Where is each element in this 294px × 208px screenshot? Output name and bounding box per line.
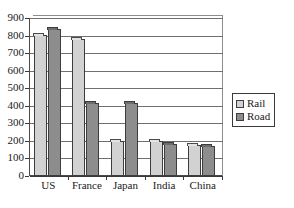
bar-top-cap <box>71 37 82 40</box>
y-axis-tick-mark <box>25 176 29 177</box>
bar-top-cap <box>187 143 198 146</box>
bar-chart: 0100200300400500600700800900 USFranceJap… <box>0 0 294 208</box>
y-axis-tick-mark <box>25 53 29 54</box>
legend-swatch-icon <box>236 100 244 108</box>
x-axis: USFranceJapanIndiaChina <box>29 179 222 197</box>
bar-china-rail <box>188 145 201 176</box>
bar-top-cap <box>85 101 96 104</box>
bar-us-rail <box>34 35 47 176</box>
y-axis-tick-mark <box>25 71 29 72</box>
bar-top-cap <box>201 144 212 147</box>
y-axis-tick-mark <box>25 36 29 37</box>
y-axis-tick-label: 800 <box>0 30 24 41</box>
chart-legend: RailRoad <box>232 93 275 127</box>
plot-frame-top-edge <box>33 15 223 16</box>
y-axis-tick-mark <box>25 106 29 107</box>
y-axis-tick-mark <box>25 141 29 142</box>
bar-japan-rail <box>111 141 124 176</box>
axis-baseline <box>30 176 223 177</box>
bar-top-cap <box>149 139 160 142</box>
bar-japan-road <box>125 103 138 176</box>
y-axis-tick-label: 500 <box>0 82 24 93</box>
x-axis-tick-mark <box>106 176 107 180</box>
bar-group-container <box>29 18 222 176</box>
y-axis-tick-label: 600 <box>0 65 24 76</box>
legend-item-rail[interactable]: Rail <box>236 97 270 110</box>
legend-item-road[interactable]: Road <box>236 110 270 123</box>
bar-france-rail <box>72 39 85 176</box>
y-axis-tick-label: 900 <box>0 12 24 23</box>
bar-top-cap <box>110 139 121 142</box>
y-axis-tick-mark <box>25 158 29 159</box>
bar-top-cap <box>47 27 58 30</box>
bar-top-cap <box>163 142 174 145</box>
plot-frame-right-edge <box>222 15 223 176</box>
x-axis-tick-label: China <box>177 179 228 192</box>
bar-top-cap <box>124 101 135 104</box>
bar-us-road <box>48 29 61 176</box>
legend-swatch-icon <box>236 113 244 121</box>
x-axis-tick-mark <box>145 176 146 180</box>
x-axis-tick-mark <box>68 176 69 180</box>
y-axis-tick-label: 400 <box>0 100 24 111</box>
y-axis-tick-mark <box>25 123 29 124</box>
bar-france-road <box>86 103 99 176</box>
bar-china-road <box>202 146 215 176</box>
y-axis-tick-mark <box>25 88 29 89</box>
y-axis-tick-label: 700 <box>0 47 24 58</box>
y-axis-tick-label: 0 <box>0 170 24 181</box>
legend-item-label: Road <box>247 111 270 122</box>
bar-top-cap <box>33 33 44 36</box>
bar-india-road <box>164 144 177 176</box>
x-axis-tick-mark <box>222 176 223 180</box>
legend-item-label: Rail <box>247 98 265 109</box>
x-axis-tick-mark <box>183 176 184 180</box>
y-axis-tick-mark <box>25 18 29 19</box>
y-axis-tick-label: 200 <box>0 135 24 146</box>
y-axis-tick-label: 300 <box>0 117 24 128</box>
bar-india-rail <box>150 141 163 176</box>
y-axis: 0100200300400500600700800900 <box>0 0 24 208</box>
y-axis-tick-label: 100 <box>0 152 24 163</box>
